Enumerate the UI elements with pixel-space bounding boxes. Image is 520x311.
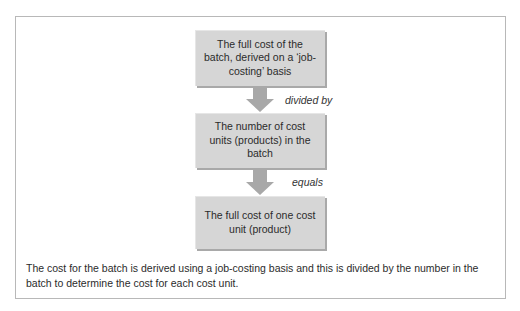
connector-label-equals: equals — [292, 176, 323, 188]
box-batch-full-cost: The full cost of the batch, derived on a… — [195, 30, 325, 86]
box-number-of-units: The number of cost units (products) in t… — [195, 113, 325, 168]
box-number-of-units-text: The number of cost units (products) in t… — [203, 120, 317, 161]
box-batch-full-cost-text: The full cost of the batch, derived on a… — [203, 38, 317, 79]
box-unit-full-cost: The full cost of one cost unit (product) — [195, 196, 325, 249]
diagram-caption: The cost for the batch is derived using … — [26, 261, 501, 291]
connector-label-divided-by: divided by — [285, 94, 332, 106]
down-arrow-icon — [246, 88, 274, 112]
down-arrow-icon — [246, 170, 274, 195]
box-unit-full-cost-text: The full cost of one cost unit (product) — [203, 209, 317, 236]
